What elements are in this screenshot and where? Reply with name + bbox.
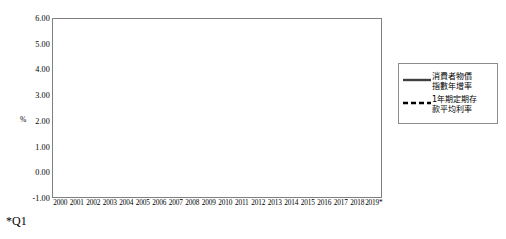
x-tick-label: 2008 <box>185 198 199 207</box>
x-tick-label: 2002 <box>86 198 100 207</box>
plot-frame <box>52 18 382 198</box>
x-tick-label: 2012 <box>251 198 265 207</box>
x-tick-label: 2010 <box>218 198 232 207</box>
y-tick-label: 1.00 <box>35 142 50 151</box>
x-tick-label: 2004 <box>119 198 133 207</box>
legend-label-deposit-line1: 1年期定期存 <box>432 95 477 105</box>
x-tick-label: 2019* <box>365 198 382 207</box>
x-tick-label: 2016 <box>317 198 331 207</box>
legend-item-cpi: 消費者物價 指數年增率 <box>402 72 493 92</box>
y-tick-label: 0.00 <box>35 168 50 177</box>
legend-label-cpi-line1: 消費者物價 <box>432 72 472 82</box>
x-tick-label: 2013 <box>268 198 282 207</box>
x-tick-label: 2007 <box>169 198 183 207</box>
y-axis-tick-labels: 6.005.004.003.002.001.000.00-1.00 <box>0 18 50 198</box>
x-tick-label: 2017 <box>334 198 348 207</box>
legend-label-cpi-line2: 指數年增率 <box>432 82 472 92</box>
chart-figure: 6.005.004.003.002.001.000.00-1.00 % 2000… <box>0 0 506 239</box>
x-tick-label: 2005 <box>136 198 150 207</box>
y-tick-label: 3.00 <box>35 91 50 100</box>
legend-label-deposit-line2: 款平均利率 <box>432 105 477 115</box>
y-tick-label: -1.00 <box>32 194 50 203</box>
footnote: *Q1 <box>6 214 27 229</box>
x-tick-label: 2018 <box>350 198 364 207</box>
y-tick-label: 4.00 <box>35 65 50 74</box>
legend-key-dashed-line-icon <box>402 95 432 113</box>
legend-item-deposit-rate: 1年期定期存 款平均利率 <box>402 95 493 115</box>
x-tick-label: 2009 <box>202 198 216 207</box>
y-axis-title: % <box>20 115 26 124</box>
legend-label-cpi: 消費者物價 指數年增率 <box>432 72 472 92</box>
y-tick-label: 6.00 <box>35 14 50 23</box>
x-axis-tick-labels: 2000200120022003200420052006200720082009… <box>52 198 382 212</box>
x-tick-label: 2006 <box>152 198 166 207</box>
x-tick-label: 2014 <box>284 198 298 207</box>
x-tick-label: 2011 <box>235 198 249 207</box>
x-tick-label: 2003 <box>103 198 117 207</box>
legend-key-solid-line-icon <box>402 72 432 90</box>
y-tick-label: 5.00 <box>35 39 50 48</box>
x-tick-label: 2000 <box>53 198 67 207</box>
x-tick-label: 2015 <box>301 198 315 207</box>
legend-label-deposit-rate: 1年期定期存 款平均利率 <box>432 95 477 115</box>
x-tick-label: 2001 <box>70 198 84 207</box>
chart-legend: 消費者物價 指數年增率 1年期定期存 款平均利率 <box>398 63 498 124</box>
y-tick-label: 2.00 <box>35 116 50 125</box>
plot-area <box>52 18 382 198</box>
